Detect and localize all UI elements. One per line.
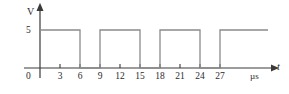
y-tick-label-5: 5: [26, 26, 31, 36]
x-tick-label-24: 24: [192, 72, 208, 82]
x-tick-label-6: 6: [74, 72, 86, 82]
x-tick-label-15: 15: [132, 72, 148, 82]
x-tick-label-18: 18: [152, 72, 168, 82]
x-tick-label-27: 27: [212, 72, 228, 82]
waveform-figure: V t 5 0 3 6 9 12 15 18 21 24 27 µs: [0, 0, 289, 94]
x-tick-label-9: 9: [94, 72, 106, 82]
waveform-trace: [40, 30, 268, 68]
x-tick-label-0: 0: [26, 72, 31, 82]
x-axis-label: t: [277, 62, 280, 72]
x-tick-label-3: 3: [54, 72, 66, 82]
x-tick-label-12: 12: [112, 72, 128, 82]
x-axis-unit-label: µs: [250, 72, 259, 81]
x-tick-label-21: 21: [172, 72, 188, 82]
y-axis-label: V: [27, 7, 34, 17]
